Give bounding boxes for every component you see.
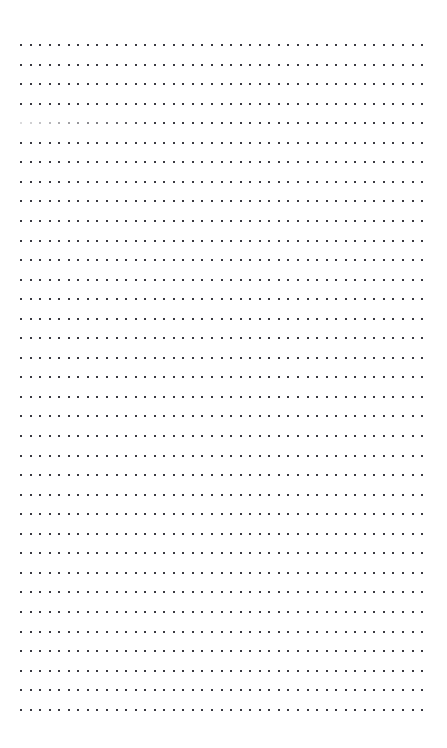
grid-dot: [249, 161, 251, 163]
grid-dot: [335, 318, 337, 320]
grid-dot: [249, 220, 251, 222]
grid-dot: [412, 631, 414, 633]
grid-dot: [106, 83, 108, 85]
grid-dot: [116, 552, 118, 554]
grid-dot: [297, 318, 299, 320]
grid-dot: [49, 200, 51, 202]
grid-dot: [297, 396, 299, 398]
grid-dot: [335, 376, 337, 378]
grid-dot: [373, 337, 375, 339]
grid-dot: [412, 200, 414, 202]
grid-dot: [230, 122, 232, 124]
grid-dot: [345, 318, 347, 320]
grid-dot: [335, 259, 337, 261]
grid-dot: [354, 513, 356, 515]
grid-dot: [154, 279, 156, 281]
grid-dot: [106, 142, 108, 144]
grid-dot: [154, 44, 156, 46]
grid-dot: [173, 279, 175, 281]
grid-dot: [77, 142, 79, 144]
grid-dot: [68, 259, 70, 261]
dot-grid-row: [0, 376, 447, 379]
grid-dot: [345, 298, 347, 300]
grid-dot: [421, 142, 423, 144]
dot-grid-row: [0, 533, 447, 536]
grid-dot: [287, 591, 289, 593]
grid-dot: [106, 103, 108, 105]
grid-dot: [77, 240, 79, 242]
grid-dot: [173, 337, 175, 339]
grid-dot: [307, 181, 309, 183]
grid-dot: [364, 318, 366, 320]
grid-dot: [221, 318, 223, 320]
grid-dot: [163, 455, 165, 457]
grid-dot: [116, 64, 118, 66]
grid-dot: [163, 611, 165, 613]
grid-dot: [268, 631, 270, 633]
dot-grid: [0, 0, 447, 748]
grid-dot: [316, 240, 318, 242]
grid-dot: [364, 298, 366, 300]
grid-dot: [421, 533, 423, 535]
grid-dot: [297, 415, 299, 417]
grid-dot: [20, 200, 22, 202]
grid-dot: [373, 689, 375, 691]
grid-dot: [163, 181, 165, 183]
grid-dot: [287, 103, 289, 105]
grid-dot: [287, 220, 289, 222]
grid-dot: [144, 103, 146, 105]
grid-dot: [326, 533, 328, 535]
grid-dot: [20, 709, 22, 711]
grid-dot: [240, 611, 242, 613]
grid-dot: [135, 591, 137, 593]
grid-dot: [49, 494, 51, 496]
grid-dot: [135, 161, 137, 163]
grid-dot: [383, 240, 385, 242]
grid-dot: [154, 64, 156, 66]
grid-dot: [240, 318, 242, 320]
grid-dot: [77, 161, 79, 163]
grid-dot: [77, 64, 79, 66]
grid-dot: [87, 64, 89, 66]
grid-dot: [182, 670, 184, 672]
grid-dot: [116, 611, 118, 613]
grid-dot: [192, 611, 194, 613]
grid-dot: [163, 494, 165, 496]
grid-dot: [412, 591, 414, 593]
grid-dot: [345, 494, 347, 496]
grid-dot: [221, 552, 223, 554]
grid-dot: [221, 591, 223, 593]
grid-dot: [230, 455, 232, 457]
grid-dot: [335, 689, 337, 691]
grid-dot: [373, 455, 375, 457]
grid-dot: [154, 670, 156, 672]
grid-dot: [402, 670, 404, 672]
grid-dot: [173, 533, 175, 535]
grid-dot: [116, 650, 118, 652]
grid-dot: [297, 689, 299, 691]
grid-dot: [373, 200, 375, 202]
grid-dot: [402, 103, 404, 105]
grid-dot: [58, 142, 60, 144]
grid-dot: [135, 318, 137, 320]
grid-dot: [335, 357, 337, 359]
grid-dot: [364, 670, 366, 672]
grid-dot: [345, 200, 347, 202]
grid-dot: [182, 376, 184, 378]
grid-dot: [307, 279, 309, 281]
grid-dot: [68, 689, 70, 691]
grid-dot: [364, 161, 366, 163]
grid-dot: [335, 279, 337, 281]
grid-dot: [383, 709, 385, 711]
grid-dot: [364, 572, 366, 574]
grid-dot: [144, 181, 146, 183]
grid-dot: [192, 670, 194, 672]
grid-dot: [335, 103, 337, 105]
grid-dot: [77, 122, 79, 124]
grid-dot: [335, 396, 337, 398]
grid-dot: [230, 552, 232, 554]
grid-dot: [307, 474, 309, 476]
grid-dot: [221, 670, 223, 672]
dot-grid-row: [0, 689, 447, 692]
grid-dot: [249, 552, 251, 554]
